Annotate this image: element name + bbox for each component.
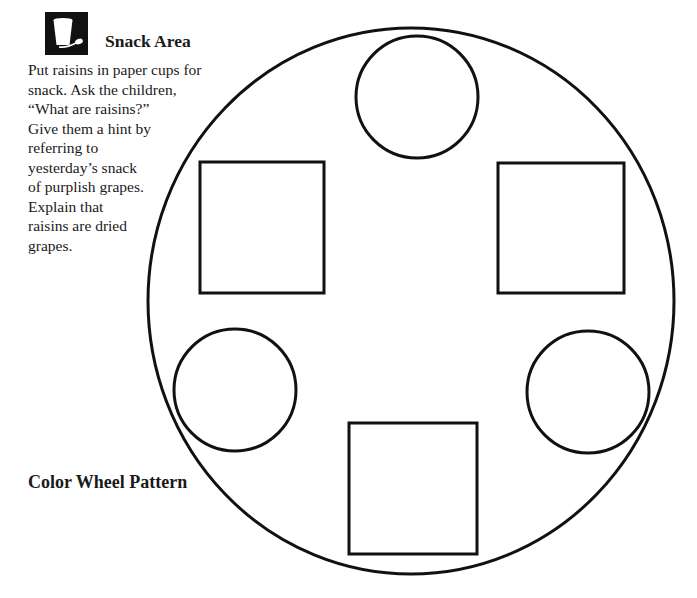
top-circle-shape xyxy=(356,36,478,158)
bottom-square-shape xyxy=(349,423,477,554)
color-wheel-pattern xyxy=(0,0,697,598)
upper-right-square-shape xyxy=(498,163,624,293)
outer-wheel-circle xyxy=(148,28,674,574)
lower-left-circle-shape xyxy=(174,329,296,451)
upper-left-square-shape xyxy=(200,162,324,293)
lower-right-circle-shape xyxy=(527,331,649,453)
color-wheel-pattern-title: Color Wheel Pattern xyxy=(28,471,187,493)
